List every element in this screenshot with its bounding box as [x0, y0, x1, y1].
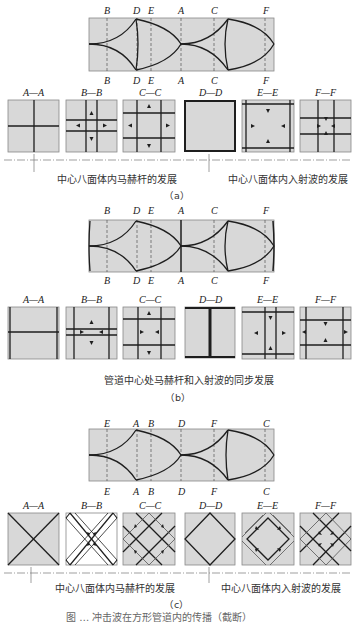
station-label: F: [210, 486, 218, 497]
station-label: E: [147, 205, 154, 216]
cross-section-CC: [123, 307, 175, 359]
station-label: E: [147, 75, 154, 86]
section-title: C—C: [139, 294, 162, 305]
cross-section-AA: [8, 307, 59, 359]
sublabel-b: （b）: [165, 390, 191, 404]
station-label: D: [132, 5, 141, 16]
station-label: C: [211, 75, 218, 86]
section-titles: A—A B—B C—C D—D E—E F—F: [22, 500, 337, 511]
station-label: B: [104, 205, 110, 216]
station-label: B: [104, 275, 110, 286]
station-label: A: [132, 418, 140, 429]
station-labels-top: E A B D F C: [103, 418, 270, 429]
section-title: E—E: [256, 294, 278, 305]
cross-section-EE: [242, 307, 294, 359]
cross-section-BB: [66, 307, 117, 359]
station-label: E: [103, 486, 110, 497]
station-label: B: [148, 418, 154, 429]
section-title: F—F: [314, 294, 337, 305]
cross-section-CC: [123, 513, 175, 565]
section-title: F—F: [314, 87, 337, 98]
station-label: C: [263, 486, 270, 497]
station-label: D: [132, 75, 141, 86]
panel-a-diagram: B D E A C F: [0, 0, 356, 200]
station-label: B: [148, 486, 154, 497]
section-title: D—D: [198, 500, 223, 511]
section-title: A—A: [22, 500, 45, 511]
cross-section-EE: [242, 100, 294, 152]
station-labels-bottom: B D E A C F: [104, 275, 270, 286]
station-label: E: [147, 5, 154, 16]
station-label: A: [177, 5, 185, 16]
station-label: E: [103, 418, 110, 429]
section-titles: A—A B—B C—C D—D E—E F—F: [22, 294, 337, 305]
station-label: F: [262, 5, 270, 16]
section-title: A—A: [22, 294, 45, 305]
cross-section-FF: [300, 513, 351, 565]
section-titles: A—A B—B C—C D—D E—E F—F: [22, 87, 337, 98]
cross-section-DD: [185, 307, 235, 358]
station-label: A: [132, 486, 140, 497]
station-label: F: [210, 418, 218, 429]
caption-incident-wave: 中心八面体内入射波的发展: [228, 171, 348, 186]
section-title: E—E: [256, 87, 278, 98]
channel-longitudinal-view: [89, 220, 274, 272]
station-label: E: [147, 275, 154, 286]
station-label: C: [211, 275, 218, 286]
station-label: A: [177, 75, 185, 86]
cross-section-EE: [242, 513, 294, 565]
section-title: B—B: [81, 294, 102, 305]
cross-section-AA: [8, 100, 59, 152]
station-label: D: [132, 275, 141, 286]
station-label: C: [211, 5, 218, 16]
section-title: B—B: [81, 500, 102, 511]
caption-synchronous: 管道中心处马赫杆和入射波的同步发展: [104, 372, 274, 387]
station-labels-bottom: B D E A C F: [104, 75, 270, 86]
station-label: F: [262, 205, 270, 216]
panel-b: B D E A C F: [0, 200, 356, 405]
station-label: C: [211, 205, 218, 216]
section-title: D—D: [198, 294, 223, 305]
cross-section-DD: [185, 101, 235, 151]
cross-section-BB: [66, 100, 117, 152]
section-title: B—B: [81, 87, 102, 98]
section-title: C—C: [139, 87, 162, 98]
panel-a: B D E A C F: [0, 0, 356, 200]
station-label: D: [132, 205, 141, 216]
figure-caption-truncated: 图 … 冲击波在方形管道内的传播（截断）: [66, 609, 252, 624]
section-title: E—E: [256, 500, 278, 511]
station-labels-top: B D E A C F: [104, 205, 270, 216]
axis-line: [4, 154, 352, 172]
channel-longitudinal-view: [89, 18, 274, 71]
cross-section-DD: [185, 513, 235, 565]
cross-section-BB: [66, 513, 117, 565]
section-title: D—D: [198, 87, 223, 98]
cross-section-FF: [300, 307, 351, 359]
station-label: C: [263, 418, 270, 429]
station-label: F: [262, 75, 270, 86]
station-label: B: [104, 75, 110, 86]
section-title: F—F: [314, 500, 337, 511]
station-labels-top: B D E A C F: [104, 5, 270, 16]
station-labels-bottom: E A B D F C: [103, 486, 270, 497]
caption-mach-stem: 中心八面体内马赫杆的发展: [55, 580, 175, 595]
station-label: F: [262, 275, 270, 286]
station-label: D: [177, 418, 186, 429]
section-title: A—A: [22, 87, 45, 98]
station-label: B: [104, 5, 110, 16]
station-label: A: [177, 275, 185, 286]
caption-incident-wave: 中心八面体内入射波的发展: [221, 580, 341, 595]
panel-c: E A B D F C: [0, 405, 356, 614]
cross-section-CC: [123, 100, 175, 152]
caption-mach-stem: 中心八面体内马赫杆的发展: [57, 171, 177, 186]
section-title: C—C: [139, 500, 162, 511]
cross-section-FF: [300, 100, 351, 152]
station-label: D: [177, 486, 186, 497]
channel-longitudinal-view: [89, 429, 274, 481]
station-label: A: [177, 205, 185, 216]
cross-section-AA: [8, 513, 59, 565]
